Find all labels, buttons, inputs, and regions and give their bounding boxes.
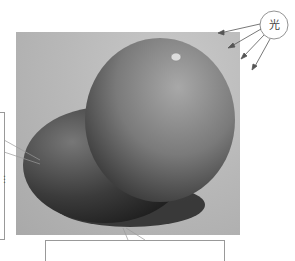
- bottom-callout-box: [45, 240, 225, 261]
- orange-stem: [171, 53, 181, 61]
- light-label: 光: [264, 16, 284, 34]
- front-orange: [85, 38, 235, 202]
- bottom-leader-lines: [123, 228, 145, 240]
- left-callout-dots: ⋮: [0, 174, 9, 184]
